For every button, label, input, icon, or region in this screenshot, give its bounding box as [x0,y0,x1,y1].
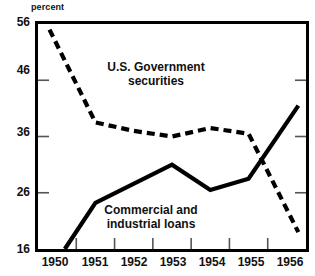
plot-area [0,0,315,276]
chart-figure: percent 56 46 36 26 16 1950 1951 1952 19… [0,0,315,276]
y-axis-ticks-right [295,80,306,193]
y-axis-ticks-left [38,80,49,193]
axis-frame [37,23,308,251]
x-axis-ticks [76,238,267,249]
series-line-commercial-loans [65,106,299,249]
plot-border [37,23,308,251]
series-line-govt-securities [49,30,298,233]
